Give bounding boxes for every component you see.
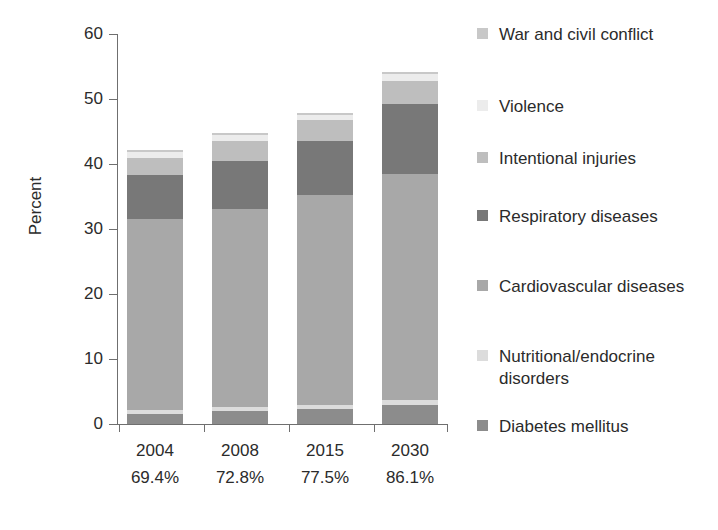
legend-swatch-icon bbox=[477, 152, 488, 163]
bar-segment bbox=[297, 120, 353, 140]
bar-segment bbox=[297, 141, 353, 196]
bar-segment bbox=[127, 414, 183, 424]
bar-2015 bbox=[297, 113, 353, 424]
bar-2008 bbox=[212, 133, 268, 424]
bar-segment bbox=[212, 411, 268, 424]
bar-segment bbox=[382, 81, 438, 104]
bar-segment bbox=[297, 195, 353, 404]
bar-segment bbox=[212, 209, 268, 407]
stacked-bar-chart: Percent 6050403020100 200469.4%200872.8%… bbox=[0, 0, 718, 530]
y-axis-tick bbox=[109, 294, 117, 295]
bar-segment bbox=[297, 409, 353, 424]
y-axis-tick bbox=[109, 424, 117, 425]
category-year-label: 2030 bbox=[360, 442, 460, 460]
x-axis-tick bbox=[447, 424, 448, 432]
y-axis-tick bbox=[109, 359, 117, 360]
bar-segment bbox=[127, 219, 183, 409]
x-axis-tick bbox=[289, 424, 290, 432]
y-axis-tick-label: 10 bbox=[55, 350, 103, 367]
bar-segment bbox=[212, 161, 268, 209]
bar-segment bbox=[127, 158, 183, 175]
category-percent-label: 86.1% bbox=[360, 469, 460, 487]
legend-label: Cardiovascular diseases bbox=[499, 276, 717, 298]
legend-label: War and civil conflict bbox=[499, 24, 717, 46]
y-axis-tick-label: 50 bbox=[55, 90, 103, 107]
x-axis-category-2030: 203086.1% bbox=[360, 442, 460, 487]
x-axis-tick bbox=[119, 424, 120, 432]
y-axis-tick bbox=[109, 34, 117, 35]
y-axis-tick bbox=[109, 164, 117, 165]
legend-swatch-icon bbox=[477, 100, 488, 111]
x-axis-tick bbox=[374, 424, 375, 432]
y-axis-tick-label: 60 bbox=[55, 25, 103, 42]
legend-label: Diabetes mellitus bbox=[499, 416, 717, 438]
y-axis-line bbox=[117, 34, 118, 425]
bar-segment bbox=[127, 175, 183, 219]
legend-label: Respiratory diseases bbox=[499, 206, 717, 228]
bar-2030 bbox=[382, 72, 438, 424]
y-axis-tick bbox=[109, 99, 117, 100]
legend-swatch-icon bbox=[477, 350, 488, 361]
legend-swatch-icon bbox=[477, 420, 488, 431]
bar-segment bbox=[382, 405, 438, 425]
legend-swatch-icon bbox=[477, 280, 488, 291]
x-axis-line bbox=[117, 424, 447, 425]
legend-label: Violence bbox=[499, 96, 717, 118]
y-axis-tick-label: 40 bbox=[55, 155, 103, 172]
y-axis-tick-label: 0 bbox=[55, 415, 103, 432]
y-axis-title: Percent bbox=[26, 146, 46, 266]
legend-label: Intentional injuries bbox=[499, 148, 717, 170]
legend-swatch-icon bbox=[477, 28, 488, 39]
y-axis-tick-label: 20 bbox=[55, 285, 103, 302]
bar-segment bbox=[212, 141, 268, 161]
bar-segment bbox=[382, 104, 438, 175]
legend-label: Nutritional/endocrine disorders bbox=[499, 346, 717, 390]
y-axis-tick-label: 30 bbox=[55, 220, 103, 237]
y-axis-tick bbox=[109, 229, 117, 230]
legend-swatch-icon bbox=[477, 210, 488, 221]
bar-segment bbox=[382, 174, 438, 400]
bar-2004 bbox=[127, 150, 183, 424]
x-axis-tick bbox=[204, 424, 205, 432]
